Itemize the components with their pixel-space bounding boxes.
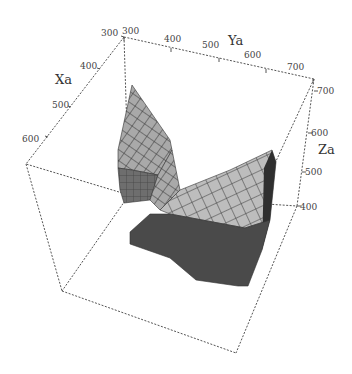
z-tick-400: 400 bbox=[300, 202, 317, 212]
z-tick-500: 500 bbox=[305, 167, 322, 177]
z-tick-700: 700 bbox=[317, 86, 334, 96]
x-axis-label: Xa bbox=[55, 72, 72, 87]
x-axis: 300 400 500 600 Xa bbox=[22, 28, 124, 144]
y-tick-400: 400 bbox=[164, 34, 181, 44]
z-axis: 700 600 500 400 Za bbox=[297, 86, 335, 212]
x-tick-600: 600 bbox=[22, 134, 39, 144]
y-tick-600: 600 bbox=[244, 50, 261, 60]
surface-plot-3d: 300 400 500 600 700 Ya 300 400 500 600 X… bbox=[0, 0, 352, 374]
y-tick-500: 500 bbox=[202, 40, 219, 50]
surface-ridge bbox=[118, 85, 180, 210]
y-tick-700: 700 bbox=[287, 62, 304, 72]
y-tick-300: 300 bbox=[122, 26, 139, 36]
y-axis: 300 400 500 600 700 Ya bbox=[122, 26, 313, 83]
y-axis-label: Ya bbox=[227, 33, 244, 48]
z-tick-600: 600 bbox=[311, 128, 328, 138]
x-tick-500: 500 bbox=[52, 100, 69, 110]
x-tick-400: 400 bbox=[80, 61, 97, 71]
z-axis-label: Za bbox=[318, 142, 335, 157]
x-tick-300: 300 bbox=[101, 28, 118, 38]
